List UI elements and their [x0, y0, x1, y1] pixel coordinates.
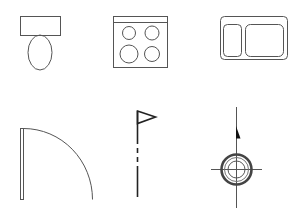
flag-pennant	[138, 111, 156, 124]
north-arrow-icon: North Arrow / Benchmark	[211, 107, 262, 208]
door-leaf	[21, 129, 24, 200]
sink-basin-large	[246, 25, 284, 57]
sink-basin-small	[224, 25, 242, 57]
flag-icon: Flag / Survey Marker	[138, 111, 156, 197]
sink-counter	[221, 17, 288, 60]
door-swing-arc	[24, 129, 93, 200]
symbols-canvas: Toilet Stove / Cooktop (4 burners) Doubl…	[0, 0, 300, 221]
burner-top-left	[123, 27, 136, 40]
burner-bottom-right	[145, 47, 160, 62]
burner-top-right	[145, 26, 159, 40]
stove-icon: Stove / Cooktop (4 burners)	[114, 17, 168, 68]
toilet-tank	[21, 17, 61, 36]
sink-icon: Double Sink	[221, 17, 288, 60]
toilet-bowl	[28, 35, 52, 70]
toilet-icon: Toilet	[21, 17, 61, 71]
door-icon: Door Swing	[21, 129, 93, 200]
burner-bottom-left	[120, 45, 138, 63]
